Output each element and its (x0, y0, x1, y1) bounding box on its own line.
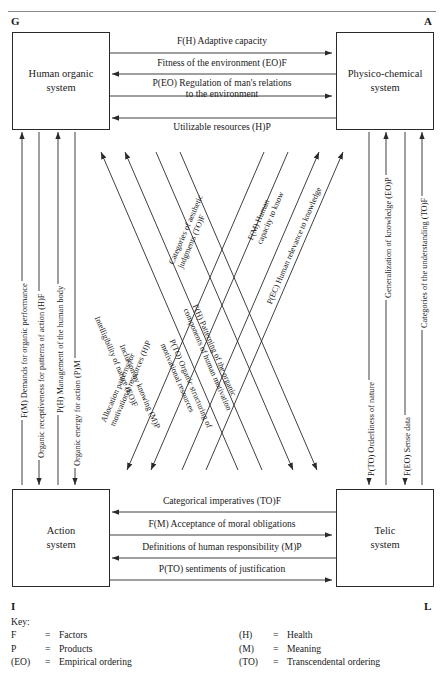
legend-def2: Health (287, 629, 435, 640)
legend-def2: Meaning (287, 643, 435, 654)
box-tl-line2: system (29, 81, 94, 95)
box-physico-chemical-system[interactable]: Physico-chemical system (336, 32, 434, 130)
arrow-label-bottom-3: Definitions of human responsibility (M)P (108, 541, 336, 552)
arrow-label-left-1: F(M) Demands for organic performance (20, 281, 29, 420)
arrow-label-right-1: P(TO) Orderliness of nature (367, 380, 376, 478)
arrow-label-top-2: Fitness of the environment (EO)F (120, 57, 324, 68)
legend-eq: = (45, 656, 59, 667)
arrow-label-top-4: Utilizable resources (H)P (140, 121, 304, 132)
box-tl-line1: Human organic (29, 67, 94, 81)
legend-eq2: = (273, 629, 287, 640)
diagram-canvas: G A I L (0, 0, 444, 677)
legend-def: Products (59, 643, 239, 654)
legend-sym: F (11, 629, 45, 640)
arrow-label-bottom-1: Categorical imperatives (TO)F (130, 495, 314, 506)
arrow-label-left-3: P(H) Management of the human body (56, 284, 65, 415)
box-tr-line2: system (348, 81, 423, 95)
legend-sym2: (H) (239, 629, 273, 640)
box-tr-line1: Physico-chemical (348, 67, 423, 81)
arrow-label-top-3-line2: to the environment (112, 88, 332, 99)
arrow-label-right-4: Categories of the understanding (TO)F (420, 196, 429, 330)
legend-eq2: = (273, 656, 287, 667)
legend-eq: = (45, 643, 59, 654)
legend-sym: P (11, 643, 45, 654)
arrow-label-bottom-4: P(TO) sentiments of justification (120, 563, 324, 574)
legend-sym: (EO) (11, 656, 45, 667)
box-bl-line1: Action (46, 524, 75, 538)
arrow-label-bottom-2: F(M) Acceptance of moral obligations (110, 518, 334, 529)
box-bl-line2: system (46, 538, 75, 552)
arrow-label-right-3: F(EO) Sense data (403, 415, 412, 478)
legend-grid: F = Factors (H) = Health P = Products (M… (11, 629, 435, 667)
legend-eq: = (45, 629, 59, 640)
arrow-label-right-2: Generalization of knowledge (EO)P (384, 175, 393, 300)
box-br-line2: system (370, 538, 399, 552)
arrow-label-top-3-line1: P(EO) Regulation of man's relations (112, 77, 332, 88)
box-br-line1: Telic (370, 524, 399, 538)
arrow-label-left-4: Organic energy for action (P)M (73, 358, 82, 468)
legend-def2: Transcendental ordering (287, 656, 435, 667)
legend-sym2: (TO) (239, 656, 273, 667)
legend-def: Factors (59, 629, 239, 640)
legend-sym2: (M) (239, 643, 273, 654)
box-action-system[interactable]: Action system (12, 489, 110, 587)
legend-eq2: = (273, 643, 287, 654)
legend: Key: F = Factors (H) = Health P = Produc… (11, 616, 435, 667)
legend-title: Key: (11, 616, 435, 627)
arrow-label-left-2: Organic receptiveness for patterns of ac… (37, 292, 46, 461)
legend-def: Empirical ordering (59, 656, 239, 667)
box-human-organic-system[interactable]: Human organic system (12, 32, 110, 130)
box-telic-system[interactable]: Telic system (336, 489, 434, 587)
arrow-label-top-1: F(H) Adaptive capacity (130, 35, 314, 46)
